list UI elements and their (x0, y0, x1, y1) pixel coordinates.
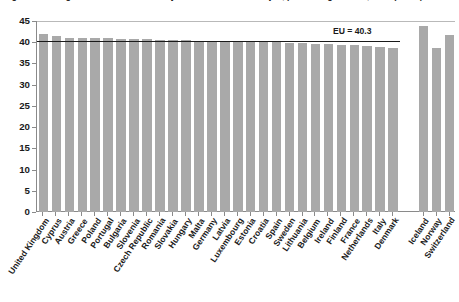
plot-area (36, 21, 455, 212)
bar (129, 39, 139, 212)
bar (362, 46, 372, 212)
bar (259, 42, 269, 212)
eu-average-label: EU = 40.3 (333, 27, 371, 36)
y-tick-label: 20 (0, 122, 30, 132)
bar (298, 43, 308, 212)
bar (168, 40, 178, 212)
x-axis-label: United Kingdom (7, 217, 51, 276)
bar (285, 43, 295, 212)
bar (337, 45, 347, 212)
bar (155, 40, 165, 212)
bar (90, 38, 100, 212)
y-tick-label: 30 (0, 80, 30, 90)
bar (246, 42, 256, 212)
bar (375, 47, 385, 212)
bar (39, 34, 49, 212)
x-axis-labels: United KingdomCyprusAustriaGreecePolandP… (0, 216, 459, 302)
bar (194, 41, 204, 212)
bar (103, 38, 113, 212)
bar (181, 40, 191, 212)
bar (350, 45, 360, 212)
bar (142, 39, 152, 212)
y-tick-label: 35 (0, 58, 30, 68)
bar (52, 36, 62, 212)
y-tick-label: 45 (0, 16, 30, 26)
bar (78, 38, 88, 212)
y-tick-label: 10 (0, 165, 30, 175)
bar (445, 35, 455, 212)
eu-average-line (37, 41, 400, 42)
bar (207, 41, 217, 212)
y-tick-label: 40 (0, 37, 30, 47)
y-tick-label: 5 (0, 186, 30, 196)
bar (432, 48, 442, 212)
chart-figure: Figure 3: Average number of usual weekly… (0, 0, 459, 302)
bar (272, 42, 282, 212)
bar (324, 44, 334, 212)
bar (388, 48, 398, 212)
chart-title: Figure 3: Average number of usual weekly… (4, 0, 456, 4)
bar (311, 44, 321, 213)
bar-series (37, 21, 456, 212)
bar (65, 38, 75, 212)
bar (116, 39, 126, 212)
bar (419, 26, 429, 212)
y-tick-label: 15 (0, 143, 30, 153)
y-tick-label: 25 (0, 101, 30, 111)
bar (220, 41, 230, 212)
bar (233, 41, 243, 212)
